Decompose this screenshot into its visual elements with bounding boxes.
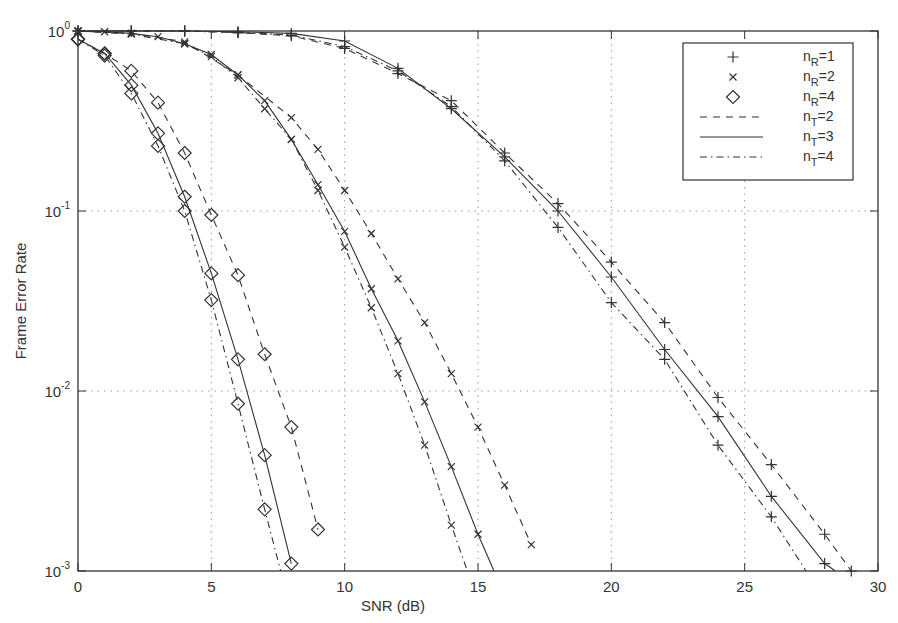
x-axis-tick-labels: 051015202530 (74, 578, 887, 595)
plus-marker-icon (713, 440, 724, 451)
plus-marker-icon (553, 222, 564, 233)
series-nr-2-nt-2 (75, 28, 535, 549)
cross-marker-icon (368, 304, 375, 311)
series-line (78, 39, 281, 571)
y-tick-label: 100 (48, 20, 71, 40)
x-tick-label: 25 (736, 578, 753, 595)
plus-marker-icon (819, 529, 830, 540)
series-line (78, 31, 531, 545)
cross-marker-icon (421, 398, 428, 405)
plus-marker-icon (713, 392, 724, 403)
y-tick-label: 10-2 (44, 380, 70, 400)
plus-marker-icon (393, 65, 404, 76)
cross-marker-icon (315, 187, 322, 194)
x-tick-label: 15 (470, 578, 487, 595)
diamond-marker-icon (285, 421, 298, 434)
series-nr-2-nt-3 (75, 28, 495, 572)
x-tick-label: 10 (336, 578, 353, 595)
plus-marker-icon (819, 558, 830, 569)
cross-marker-icon (261, 97, 268, 104)
plus-marker-icon (766, 459, 777, 470)
series-nr-4-nt-2 (72, 33, 325, 536)
plus-marker-icon (659, 344, 670, 355)
plus-marker-icon (766, 511, 777, 522)
x-tick-label: 30 (870, 578, 887, 595)
cross-marker-icon (368, 230, 375, 237)
series-nr-4-nt-3 (72, 33, 298, 570)
series-line (78, 39, 291, 563)
cross-marker-icon (315, 181, 322, 188)
cross-marker-icon (528, 541, 535, 548)
cross-marker-icon (341, 244, 348, 251)
cross-marker-icon (395, 275, 402, 282)
y-axis-title: Frame Error Rate (12, 243, 29, 360)
cross-marker-icon (368, 285, 375, 292)
series-line (78, 39, 318, 529)
cross-marker-icon (448, 370, 455, 377)
cross-marker-icon (395, 337, 402, 344)
cross-marker-icon (395, 370, 402, 377)
plus-marker-icon (606, 257, 617, 268)
x-tick-label: 5 (207, 578, 215, 595)
series-nr-4-nt-4 (72, 33, 281, 571)
plus-marker-icon (766, 491, 777, 502)
series-line (78, 31, 494, 571)
plus-marker-icon (233, 27, 244, 38)
plus-marker-icon (713, 411, 724, 422)
x-tick-label: 0 (74, 578, 82, 595)
cross-marker-icon (315, 146, 322, 153)
cross-marker-icon (501, 482, 508, 489)
y-axis-tick-labels: 10010-110-210-3 (44, 20, 70, 580)
plus-marker-icon (606, 271, 617, 282)
diamond-marker-icon (232, 269, 245, 282)
chart: 051015202530 10010-110-210-3 SNR (dB) Fr… (0, 0, 898, 623)
cross-marker-icon (448, 522, 455, 529)
plus-marker-icon (659, 354, 670, 365)
cross-marker-icon (421, 442, 428, 449)
cross-marker-icon (288, 136, 295, 143)
diamond-marker-icon (152, 96, 165, 109)
y-tick-label: 10-1 (44, 200, 70, 220)
y-tick-label: 10-3 (44, 560, 70, 580)
cross-marker-icon (448, 463, 455, 470)
cross-marker-icon (475, 424, 482, 431)
x-axis-title: SNR (dB) (361, 597, 425, 614)
diamond-marker-icon (232, 397, 245, 410)
x-tick-label: 20 (603, 578, 620, 595)
diamond-marker-icon (125, 64, 138, 77)
cross-marker-icon (421, 319, 428, 326)
legend: nR=1nR=2nR=4nT=2nT=3nT=4 (683, 43, 853, 180)
cross-marker-icon (288, 114, 295, 121)
cross-marker-icon (261, 105, 268, 112)
